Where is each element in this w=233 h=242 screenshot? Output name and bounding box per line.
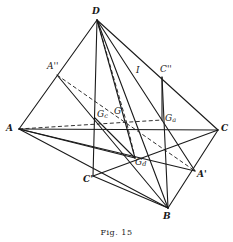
label-G: G — [114, 107, 121, 116]
label-C-prime: C' — [83, 175, 93, 184]
label-A-double-prime: A'' — [47, 62, 58, 71]
figure-caption: Fig. 15 — [0, 228, 233, 237]
solid-edge-C2-B — [162, 77, 168, 208]
dashed-edge-A-Ga — [19, 120, 162, 129]
label-B: B — [163, 212, 171, 221]
solid-edge-A-Gd — [19, 129, 135, 158]
label-D: D — [92, 7, 100, 16]
label-A: A — [6, 124, 13, 133]
solid-edge-C1-B — [93, 176, 168, 208]
label-A-prime: A' — [197, 170, 207, 179]
label-C-double-prime: C'' — [160, 65, 172, 74]
label-Gd: Gd — [135, 158, 146, 168]
solid-edge-A-C — [19, 129, 218, 130]
label-I: I — [136, 66, 140, 75]
label-C: C — [221, 124, 228, 133]
solid-edge-D-C1 — [93, 20, 97, 176]
solid-edge-D-A — [19, 20, 97, 129]
label-Ga: Ga — [165, 114, 176, 124]
label-Gc: Gc — [97, 110, 108, 120]
tetrahedron-diagram — [0, 0, 233, 242]
